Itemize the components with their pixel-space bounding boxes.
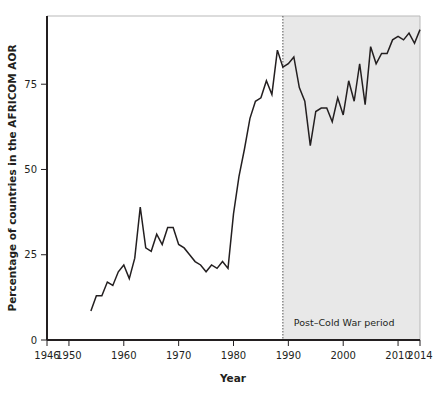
chart-figure: 0255075 19461950196019701980199020002010… <box>0 0 436 394</box>
x-tick-label: 2014 <box>407 350 432 361</box>
x-tick-label: 1990 <box>276 350 301 361</box>
y-tick-label: 75 <box>24 79 37 90</box>
x-tick-label: 1980 <box>221 350 246 361</box>
post-cold-war-label: Post–Cold War period <box>294 317 395 328</box>
y-tick-label: 0 <box>31 335 37 346</box>
post-cold-war-shaded-region <box>283 16 420 340</box>
y-axis-ticks: 0255075 <box>24 79 47 346</box>
x-tick-label: 1950 <box>56 350 81 361</box>
x-axis-ticks: 194619501960197019801990200020102014 <box>34 340 432 361</box>
y-tick-label: 25 <box>24 249 37 260</box>
x-axis-title: Year <box>219 372 247 384</box>
y-tick-label: 50 <box>24 164 37 175</box>
x-tick-label: 2000 <box>330 350 355 361</box>
y-axis-title: Percentage of countries in the AFRICOM A… <box>6 44 18 311</box>
x-tick-label: 1970 <box>166 350 191 361</box>
x-tick-label: 1960 <box>111 350 136 361</box>
line-chart-svg: 0255075 19461950196019701980199020002010… <box>0 0 436 394</box>
